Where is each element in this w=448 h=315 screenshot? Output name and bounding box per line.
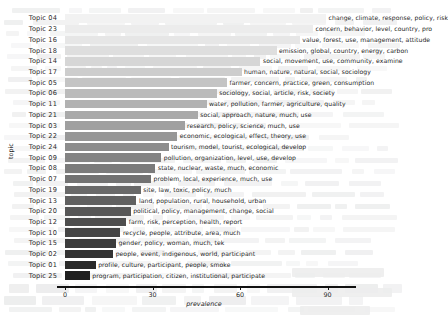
y-axis-label-topic-16: Topic 16: [29, 37, 57, 44]
x-tick-mark: [153, 286, 154, 290]
x-tick-mark: [328, 286, 329, 290]
y-axis-label-topic-22: Topic 22: [29, 133, 57, 140]
bar-annotation: change, climate, response, policy, risk: [326, 15, 448, 21]
plot-area: change, climate, response, policy, riskc…: [65, 13, 348, 281]
y-axis-label-topic-02: Topic 02: [29, 251, 57, 258]
bar-annotation: research, policy, science, much, use: [185, 123, 300, 129]
bar-row: program, participation, citizen, institu…: [65, 271, 348, 280]
bar-topic-21: [65, 111, 198, 120]
y-axis-label-topic-05: Topic 05: [29, 79, 57, 86]
y-axis-label-topic-14: Topic 14: [29, 58, 57, 65]
bar-row: concern, behavior, level, country, pro: [65, 25, 348, 34]
bar-topic-24: [65, 143, 169, 152]
bar-annotation: social, approach, nature, much, use: [198, 112, 312, 118]
y-axis-label-topic-08: Topic 08: [29, 165, 57, 172]
bar-row: profile, culture, participant, people, s…: [65, 261, 348, 270]
bar-row: human, nature, natural, social, sociolog…: [65, 68, 348, 77]
y-axis-label-topic-17: Topic 17: [29, 69, 57, 76]
bar-row: economic, ecological, effect, theory, us…: [65, 132, 348, 141]
bar-annotation: social, movement, use, community, examin…: [260, 58, 402, 64]
y-axis-label-topic-18: Topic 18: [29, 47, 57, 54]
bar-row: site, law, toxic, policy, much: [65, 186, 348, 195]
y-axis-label-topic-09: Topic 09: [29, 154, 57, 161]
y-axis-label-topic-13: Topic 13: [29, 197, 57, 204]
x-tick-label: 30: [148, 291, 156, 299]
bar-annotation: land, population, rural, household, urba…: [136, 198, 266, 204]
y-axis-label-topic-01: Topic 01: [29, 262, 57, 269]
y-axis-label-topic-25: Topic 25: [29, 272, 57, 279]
bar-topic-03: [65, 121, 185, 130]
bar-topic-08: [65, 164, 155, 173]
bar-topic-10: [65, 228, 120, 237]
bar-row: sociology, social, article, risk, societ…: [65, 89, 348, 98]
y-axis-label-topic-04: Topic 04: [29, 15, 57, 22]
bar-topic-17: [65, 68, 242, 77]
bar-row: political, policy, management, change, s…: [65, 207, 348, 216]
bar-topic-11: [65, 100, 207, 109]
bar-row: farm, risk, perception, health, report: [65, 218, 348, 227]
bar-topic-04: [65, 14, 326, 23]
bar-row: change, climate, response, policy, risk: [65, 14, 348, 23]
y-axis-label-topic-20: Topic 20: [29, 208, 57, 215]
bar-annotation: farm, risk, perception, health, report: [126, 219, 242, 225]
bar-topic-25: [65, 271, 90, 280]
bar-annotation: program, participation, citizen, institu…: [90, 273, 265, 279]
bar-annotation: farmer, concern, practice, green, consum…: [227, 80, 374, 86]
bar-row: social, movement, use, community, examin…: [65, 57, 348, 66]
bar-annotation: profile, culture, participant, people, s…: [96, 262, 231, 268]
bar-annotation: concern, behavior, level, country, pro: [313, 26, 432, 32]
bar-topic-15: [65, 239, 116, 248]
bar-annotation: economic, ecological, effect, theory, us…: [177, 133, 306, 139]
bar-row: emission, global, country, energy, carbo…: [65, 46, 348, 55]
bar-topic-09: [65, 153, 161, 162]
x-tick-mark: [65, 286, 66, 290]
bar-topic-16: [65, 36, 300, 45]
bar-topic-02: [65, 250, 113, 259]
y-axis-label-topic-19: Topic 19: [29, 187, 57, 194]
bar-row: problem, local, experience, much, use: [65, 175, 348, 184]
bar-topic-19: [65, 186, 141, 195]
bar-annotation: gender, policy, woman, much, tek: [116, 240, 224, 246]
bar-annotation: human, nature, natural, social, sociolog…: [242, 69, 371, 75]
x-tick-label: 0: [63, 291, 67, 299]
bar-row: people, event, indigenous, world, partic…: [65, 250, 348, 259]
bar-row: state, nuclear, waste, much, economic: [65, 164, 348, 173]
x-tick-label: 60: [236, 291, 244, 299]
bar-annotation: site, law, toxic, policy, much: [141, 187, 232, 193]
y-axis-label-topic-21: Topic 21: [29, 112, 57, 119]
x-axis-title: prevalence: [0, 300, 408, 308]
bar-topic-01: [65, 261, 96, 270]
bar-annotation: water, pollution, farmer, agriculture, q…: [207, 101, 346, 107]
y-axis-label-topic-15: Topic 15: [29, 240, 57, 247]
x-tick-label: 90: [323, 291, 331, 299]
bar-annotation: sociology, social, article, risk, societ…: [217, 90, 335, 96]
bar-row: social, approach, nature, much, use: [65, 111, 348, 120]
bar-annotation: tourism, model, tourist, ecological, dev…: [169, 144, 307, 150]
y-axis-label-topic-11: Topic 11: [29, 101, 57, 108]
bar-row: land, population, rural, household, urba…: [65, 196, 348, 205]
bar-row: gender, policy, woman, much, tek: [65, 239, 348, 248]
bar-row: research, policy, science, much, use: [65, 121, 348, 130]
bar-row: pollution, organization, level, use, dev…: [65, 153, 348, 162]
bar-topic-07: [65, 175, 151, 184]
y-axis-label-topic-23: Topic 23: [29, 26, 57, 33]
y-axis-label-topic-10: Topic 10: [29, 229, 57, 236]
bar-annotation: pollution, organization, level, use, dev…: [161, 155, 296, 161]
x-tick-mark: [240, 286, 241, 290]
bar-topic-18: [65, 46, 277, 55]
y-axis-label-topic-24: Topic 24: [29, 144, 57, 151]
bar-topic-05: [65, 78, 227, 87]
bar-annotation: people, event, indigenous, world, partic…: [113, 251, 255, 257]
bar-annotation: political, policy, management, change, s…: [131, 208, 274, 214]
y-axis-label-topic-03: Topic 03: [29, 122, 57, 129]
bar-row: farmer, concern, practice, green, consum…: [65, 78, 348, 87]
y-axis-tick-labels: Topic 04Topic 23Topic 16Topic 18Topic 14…: [0, 13, 62, 281]
y-axis-label-topic-12: Topic 12: [29, 219, 57, 226]
bar-annotation: problem, local, experience, much, use: [151, 176, 272, 182]
bar-topic-12: [65, 218, 126, 227]
bar-row: water, pollution, farmer, agriculture, q…: [65, 100, 348, 109]
bar-annotation: emission, global, country, energy, carbo…: [277, 47, 409, 53]
bar-topic-23: [65, 25, 313, 34]
bar-topic-14: [65, 57, 260, 66]
